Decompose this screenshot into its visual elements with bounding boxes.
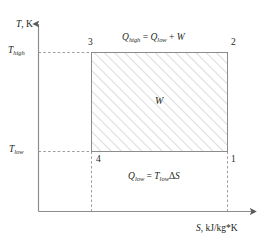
tick-label-t-low: Tlow [9,145,24,155]
q-high-subscript: high [129,36,140,43]
x-axis-unit: , kJ/kg*K [201,223,238,233]
q-low-symbol-bottom: Q [128,171,135,181]
state-point-1: 1 [231,155,236,165]
plus-sign: + [167,32,177,42]
q-low-subscript-bottom: low [135,175,144,182]
ts-diagram: T, K S, kJ/kg*K Thigh Tlow 3 2 4 1 Qhigh… [0,0,271,242]
t-high-subscript: high [13,49,24,56]
q-low-subscript-top: low [157,36,166,43]
state-point-3: 3 [88,38,93,48]
equals-sign-bottom: = [144,171,154,181]
entropy-symbol: S [175,171,180,181]
x-axis-label: S, kJ/kg*K [196,224,238,234]
work-area-label: W [155,96,163,106]
t-low-subscript: low [14,148,23,155]
equation-q-low: Qlow = TlowΔS [128,172,180,182]
work-symbol-top: W [177,32,185,42]
state-point-2: 2 [231,38,236,48]
q-high-symbol: Q [122,32,129,42]
t-low-symbol-eq: T [154,171,159,181]
t-low-subscript-eq: low [160,175,169,182]
y-axis-unit: , K [21,19,33,29]
equals-sign-top: = [140,32,150,42]
y-axis-label: T, K [16,20,33,30]
state-point-4: 4 [96,155,101,165]
equation-q-high: Qhigh = Qlow + W [122,33,185,43]
tick-label-t-high: Thigh [8,46,25,56]
